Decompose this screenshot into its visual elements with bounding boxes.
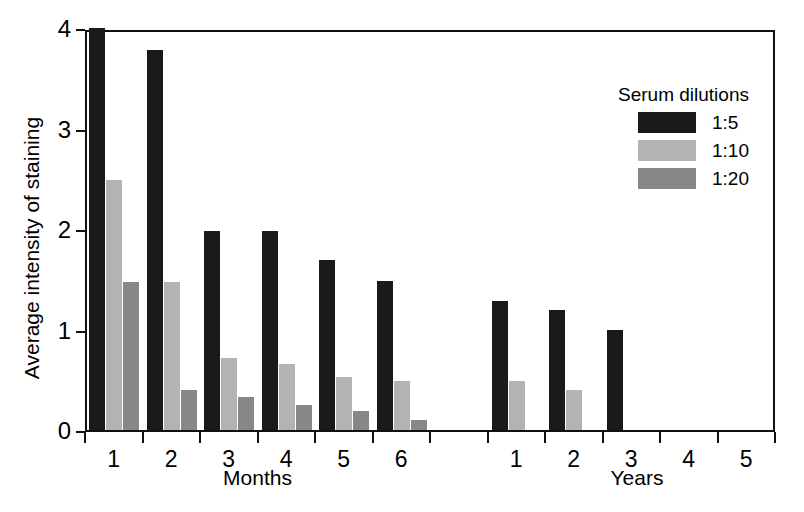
- x-tick-mark: [659, 432, 661, 443]
- bar-1-10-1: [164, 282, 180, 430]
- bar-1-10-7: [509, 381, 525, 430]
- y-tick-mark: [76, 130, 85, 132]
- y-tick-mark: [76, 331, 85, 333]
- legend-entry-1-5: 1:5: [638, 112, 804, 133]
- y-tick-label: 0: [58, 417, 71, 445]
- legend-entry-1-20: 1:20: [638, 168, 804, 189]
- x-tick-mark: [717, 432, 719, 443]
- legend-label: 1:20: [712, 168, 749, 189]
- x-tick-label: 1: [502, 446, 530, 472]
- bar-1-5-7: [492, 301, 508, 430]
- legend-swatch-1-20: [638, 168, 696, 189]
- plot-area: Serum dilutions 1:51:101:20: [85, 30, 775, 432]
- bar-1-20-0: [123, 282, 139, 430]
- y-axis-title: Average intensity of staining: [20, 58, 44, 438]
- y-tick-label: 1: [58, 317, 71, 345]
- x-tick-mark: [142, 432, 144, 443]
- bar-1-20-3: [296, 405, 312, 430]
- bar-chart-figure: Average intensity of staining 01234 Seru…: [0, 0, 804, 512]
- bar-1-10-3: [279, 364, 295, 430]
- x-tick-mark: [84, 432, 86, 443]
- y-tick-mark: [76, 29, 85, 31]
- x-tick-mark: [774, 432, 776, 443]
- chart-legend: Serum dilutions 1:51:101:20: [610, 84, 804, 196]
- bar-1-5-5: [377, 281, 393, 430]
- x-tick-mark: [314, 432, 316, 443]
- bar-1-20-1: [181, 390, 197, 430]
- bar-1-5-8: [549, 310, 565, 430]
- x-group-caption-years: Years: [537, 466, 737, 490]
- x-tick-label: 6: [387, 446, 415, 472]
- legend-title: Serum dilutions: [618, 84, 804, 106]
- y-tick-mark: [76, 230, 85, 232]
- x-tick-mark: [544, 432, 546, 443]
- bar-1-10-2: [221, 358, 237, 430]
- bar-1-5-3: [262, 231, 278, 430]
- bar-1-20-5: [411, 420, 427, 430]
- bar-1-5-0: [89, 28, 105, 430]
- y-tick-label: 4: [58, 15, 71, 43]
- x-tick-label: 1: [100, 446, 128, 472]
- legend-label: 1:5: [712, 112, 738, 133]
- x-tick-mark: [602, 432, 604, 443]
- bar-1-5-4: [319, 260, 335, 430]
- bar-1-10-0: [106, 180, 122, 430]
- x-tick-mark: [487, 432, 489, 443]
- bar-1-10-8: [566, 390, 582, 430]
- y-tick-label: 3: [58, 116, 71, 144]
- legend-label: 1:10: [712, 140, 749, 161]
- bar-1-10-4: [336, 377, 352, 430]
- bar-1-10-5: [394, 381, 410, 430]
- bar-1-20-2: [238, 397, 254, 430]
- x-tick-mark: [372, 432, 374, 443]
- x-tick-mark: [199, 432, 201, 443]
- y-tick-label: 2: [58, 216, 71, 244]
- x-tick-mark: [429, 432, 431, 443]
- legend-entries: 1:51:101:20: [610, 112, 804, 189]
- legend-swatch-1-10: [638, 140, 696, 161]
- bar-1-5-1: [147, 50, 163, 430]
- x-tick-mark: [257, 432, 259, 443]
- x-group-caption-months: Months: [158, 466, 358, 490]
- bar-1-5-2: [204, 231, 220, 430]
- bar-1-20-4: [353, 411, 369, 430]
- legend-entry-1-10: 1:10: [638, 140, 804, 161]
- legend-swatch-1-5: [638, 112, 696, 133]
- bar-1-5-9: [607, 330, 623, 431]
